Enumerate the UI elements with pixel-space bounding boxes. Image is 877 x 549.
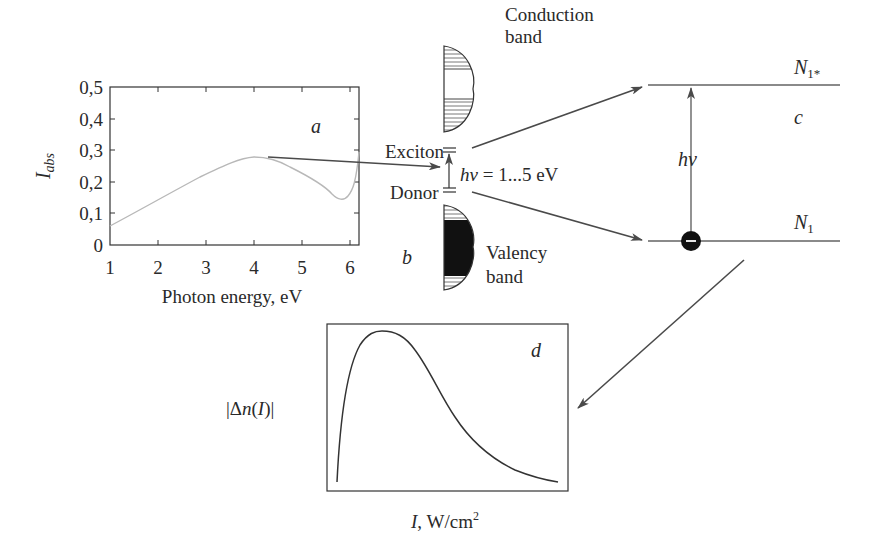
conduction-band bbox=[440, 44, 480, 136]
arrow-c-to-d bbox=[578, 260, 744, 408]
valency-band-label-2: band bbox=[486, 266, 523, 287]
chart-a-ticks bbox=[110, 87, 359, 245]
x-tick-label: 2 bbox=[153, 257, 163, 278]
chart-d-xlabel: I, W/cm2 bbox=[410, 509, 479, 532]
photon-energy-label: hv bbox=[678, 148, 697, 170]
exciton-level bbox=[443, 148, 456, 152]
donor-label: Donor bbox=[390, 182, 439, 203]
chart-d: d |Δn(I)| I, W/cm2 bbox=[226, 324, 568, 532]
y-tick-label: 0,4 bbox=[79, 109, 103, 130]
lower-level-label: N1 bbox=[793, 211, 814, 236]
conduction-band-label: Conduction bbox=[505, 4, 594, 25]
x-tick-label: 6 bbox=[345, 257, 355, 278]
y-tick-label: 0,2 bbox=[79, 172, 103, 193]
chart-a: 0 0,1 0,2 0,3 0,4 0,5 1 2 3 4 5 6 Photon… bbox=[32, 77, 440, 307]
arrow-exciton-to-upper-level bbox=[472, 87, 642, 148]
band-diagram-b: Conduction band Exciton Donor hv = 1...5… bbox=[385, 4, 642, 293]
chart-a-xlabel: Photon energy, eV bbox=[162, 286, 303, 307]
y-tick-label: 0,1 bbox=[79, 203, 103, 224]
level-scheme-c: hv N1* N1 c bbox=[578, 56, 840, 408]
panel-label-d: d bbox=[531, 339, 542, 361]
arrow-donor-to-lower-level bbox=[472, 192, 642, 240]
y-tick-label: 0,5 bbox=[79, 77, 103, 98]
valency-band-label: Valency bbox=[486, 242, 548, 263]
x-tick-label: 4 bbox=[249, 257, 259, 278]
x-tick-label: 1 bbox=[105, 257, 115, 278]
conduction-band-label-2: band bbox=[505, 26, 542, 47]
upper-level-label: N1* bbox=[793, 56, 820, 81]
valency-band bbox=[440, 203, 480, 293]
delta-n-curve bbox=[337, 331, 558, 482]
exciton-label: Exciton bbox=[385, 141, 445, 162]
x-tick-label: 3 bbox=[201, 257, 211, 278]
chart-a-y-tick-labels: 0 0,1 0,2 0,3 0,4 0,5 bbox=[79, 77, 103, 256]
chart-a-ylabel: Iabs bbox=[32, 152, 57, 180]
donor-level bbox=[443, 188, 456, 192]
y-tick-label: 0,3 bbox=[79, 140, 103, 161]
chart-a-frame bbox=[110, 87, 359, 245]
panel-label-c: c bbox=[794, 106, 803, 128]
y-tick-label: 0 bbox=[94, 235, 104, 256]
transition-energy-label: hv = 1...5 eV bbox=[460, 164, 559, 185]
x-tick-label: 5 bbox=[297, 257, 307, 278]
chart-d-ylabel: |Δn(I)| bbox=[226, 398, 274, 420]
chart-a-x-tick-labels: 1 2 3 4 5 6 bbox=[105, 257, 355, 278]
panel-label-b: b bbox=[402, 246, 412, 268]
panel-label-a: a bbox=[311, 115, 321, 137]
absorption-curve bbox=[110, 152, 359, 226]
